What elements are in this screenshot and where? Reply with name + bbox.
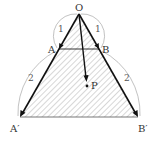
label-b: B: [102, 44, 109, 55]
label-a-prime: A′: [9, 123, 20, 134]
length-label-aa-prime: 2: [28, 73, 34, 83]
length-label-bb-prime: 2: [124, 73, 130, 83]
point-p-dot: [86, 85, 89, 88]
length-label-oa: 1: [58, 24, 64, 34]
diagram-canvas: O A B A′ B′ P 1 1 2 2: [0, 0, 158, 142]
shaded-triangle-region: [20, 14, 138, 117]
length-label-ob: 1: [95, 24, 101, 34]
label-b-prime: B′: [138, 123, 148, 134]
vector-triangle-diagram: O A B A′ B′ P 1 1 2 2: [0, 0, 158, 142]
label-o: O: [75, 2, 83, 13]
label-a: A: [47, 44, 56, 55]
label-p: P: [91, 80, 98, 91]
